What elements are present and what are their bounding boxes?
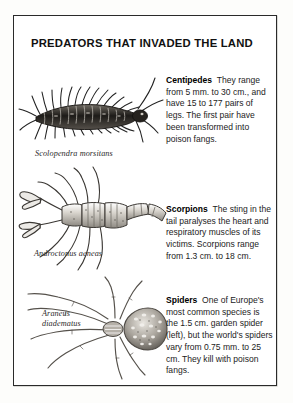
lead-spider: Spiders <box>166 295 202 305</box>
page-background: PREDATORS THAT INVADED THE LAND <box>0 0 293 403</box>
caption-spider-line1: Araneus <box>42 309 102 319</box>
text-spider: SpidersOne of Europe's most common speci… <box>166 295 273 377</box>
caption-scorpion: Androctonus aeneas <box>34 249 102 259</box>
entry-spider: Araneus diadematus SpidersOne of Europe'… <box>14 275 276 385</box>
entry-scorpion: Androctonus aeneas ScorpionsThe sting in… <box>14 162 276 275</box>
text-centipede: CentipedesThey range from 5 mm. to 30 cm… <box>166 75 273 145</box>
description-centipede: They range from 5 mm. to 30 cm., and hav… <box>166 75 266 144</box>
spider-illustration <box>16 275 166 385</box>
text-scorpion: ScorpionsThe sting in the tail paralyses… <box>166 204 273 263</box>
lead-centipede: Centipedes <box>166 75 217 85</box>
page-title: PREDATORS THAT INVADED THE LAND <box>31 37 253 49</box>
caption-spider: Araneus diadematus <box>42 309 102 330</box>
caption-spider-line2: diadematus <box>42 319 102 329</box>
lead-scorpion: Scorpions <box>166 204 213 214</box>
entry-centipede: Scolopendra morsitans CentipedesThey ran… <box>14 54 276 162</box>
centipede-illustration <box>16 54 166 162</box>
caption-centipede: Scolopendra morsitans <box>35 149 113 159</box>
plate-frame: PREDATORS THAT INVADED THE LAND <box>13 15 277 386</box>
description-spider: One of Europe's most common species is t… <box>166 295 273 375</box>
